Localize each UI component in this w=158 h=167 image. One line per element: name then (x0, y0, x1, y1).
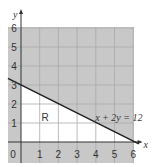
x-tick-label: 2 (56, 149, 62, 160)
y-tick-label: 2 (11, 99, 17, 110)
y-axis-label: y (12, 9, 18, 20)
y-tick-label: 3 (11, 80, 17, 91)
region-r-label: R (42, 112, 49, 123)
chart: 0123456123456 x y R x + 2y = 12 (0, 0, 158, 167)
x-tick-label: 3 (74, 149, 80, 160)
line-equation-label: x + 2y = 12 (94, 112, 142, 123)
y-axis-arrow-icon (19, 9, 23, 14)
y-tick-label: 6 (11, 23, 17, 34)
y-tick-label: 4 (11, 61, 17, 72)
x-axis-label: x (142, 139, 148, 150)
x-tick-label: 5 (112, 149, 118, 160)
y-tick-label: 1 (11, 118, 17, 129)
x-tick-label: 6 (130, 149, 136, 160)
x-tick-label: 4 (93, 149, 99, 160)
y-tick-label: 5 (11, 42, 17, 53)
x-tick-label: 1 (37, 149, 43, 160)
x-tick-label: 0 (10, 149, 16, 160)
